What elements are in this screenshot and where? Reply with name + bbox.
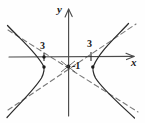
hyperbola-left-branch bbox=[7, 26, 44, 118]
hyperbola-figure: y x 3 3 -1 bbox=[0, 0, 145, 123]
left-vertex-dot bbox=[42, 65, 45, 68]
x-axis-label: x bbox=[131, 57, 137, 68]
y-axis-label: y bbox=[57, 4, 62, 15]
right-tick-label: 3 bbox=[87, 39, 92, 49]
hyperbola-right-branch bbox=[93, 24, 135, 119]
x-axis-line bbox=[9, 56, 134, 57]
center-label: -1 bbox=[72, 61, 80, 71]
right-vertex-dot bbox=[91, 65, 94, 68]
left-tick-label: 3 bbox=[40, 41, 45, 51]
x-axis bbox=[9, 53, 134, 59]
left-tick-dot bbox=[42, 55, 45, 58]
